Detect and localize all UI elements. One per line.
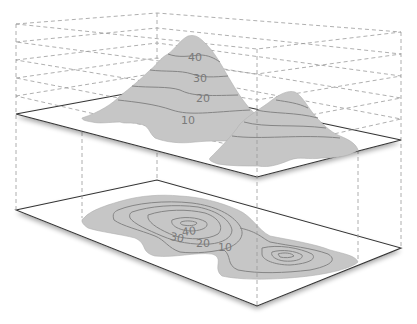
topographic-diagram: 40 30 20 10 40 30 20 1	[0, 0, 417, 324]
terrain-label-30: 30	[193, 72, 207, 85]
map-label-20: 20	[196, 237, 210, 250]
terrain-label-20: 20	[196, 92, 210, 105]
terrain-label-40: 40	[188, 51, 202, 64]
map-label-10: 10	[218, 241, 232, 254]
terrain-label-10: 10	[181, 114, 195, 127]
layer-top	[16, 13, 401, 49]
